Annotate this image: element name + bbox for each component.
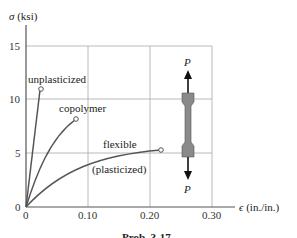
load-label-top: P [183, 56, 191, 68]
label-unplasticized: unplasticized [28, 73, 87, 85]
y-tick-15: 15 [9, 40, 21, 52]
marker-copolymer [74, 117, 79, 122]
label-flexible: flexible [103, 138, 137, 150]
curve-flexible [26, 150, 161, 207]
curve-copolymer [26, 120, 75, 207]
tensile-specimen-icon: P P [182, 56, 194, 195]
curve-unplasticized [26, 90, 40, 207]
y-tick-10: 10 [9, 93, 21, 105]
figure-caption: Prob. 3-17 [122, 231, 171, 238]
marker-unplasticized [39, 87, 44, 92]
arrow-down-icon [184, 171, 192, 180]
arrow-up-icon [184, 70, 192, 79]
label-copolymer: copolymer [59, 102, 106, 114]
y-axis-label: σ (ksi) [9, 10, 38, 23]
x-tick-020: 0.20 [140, 209, 160, 221]
marker-flexible [159, 148, 164, 153]
y-tick-0: 0 [15, 201, 21, 213]
end-markers [39, 87, 164, 153]
specimen-body [182, 93, 194, 157]
stress-strain-chart: σ (ksi) ϵ (in./in.) 15 10 5 0 0 0.10 0.2… [0, 0, 297, 238]
x-tick-010: 0.10 [78, 209, 98, 221]
load-label-bottom: P [183, 183, 191, 195]
y-tick-5: 5 [15, 147, 21, 159]
label-plasticized: (plasticized) [92, 163, 147, 176]
x-axis-label: ϵ (in./in.) [239, 201, 280, 214]
x-tick-0: 0 [23, 209, 29, 221]
x-tick-030: 0.30 [202, 209, 222, 221]
